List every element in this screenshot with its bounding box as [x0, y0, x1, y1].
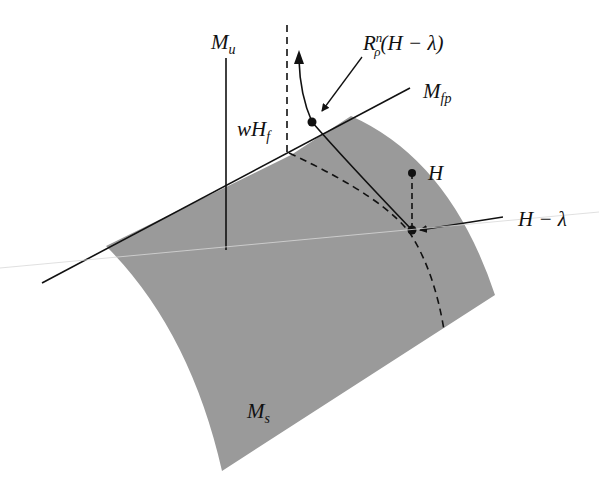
label-fixed-point-manifold: Mfp [422, 79, 451, 106]
diagram-canvas: Mu wHf Rnρ(H − λ) Mfp H H − λ Ms [0, 0, 599, 496]
label-weak-set: wHf [237, 117, 272, 144]
label-point-H-minus-lambda: H − λ [517, 207, 567, 231]
point-renormalization [308, 118, 317, 127]
renormalization-pointer-arrow [322, 57, 362, 111]
label-renormalization: Rnρ(H − λ) [362, 30, 444, 59]
point-H [408, 169, 416, 177]
label-unstable-manifold: Mu [210, 30, 236, 57]
trajectory-arrowhead-icon [294, 50, 304, 64]
label-point-H: H [427, 161, 445, 185]
